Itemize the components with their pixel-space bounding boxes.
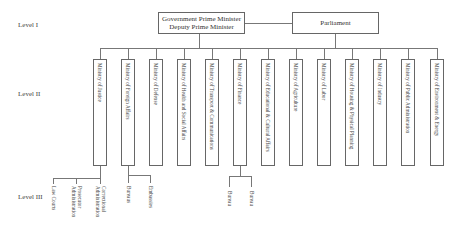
ministry-label: Ministry of Environment & Energy: [434, 63, 440, 136]
ministry-label: Ministry of Finance: [237, 63, 243, 104]
drop-line: [128, 175, 129, 183]
deputy-title: Deputy Prime Minister: [169, 23, 234, 31]
embassies-label: Embassies: [148, 186, 154, 208]
ministry-label: Ministry of Defense: [153, 63, 159, 105]
drop-line: [251, 176, 252, 187]
ministry-label: Ministry of Public Administration: [405, 63, 411, 133]
finance-sub-bus: [229, 176, 252, 177]
drop-line: [352, 48, 353, 59]
law-courts-label: Law Courts: [51, 186, 57, 210]
drop-line: [240, 48, 241, 59]
ministry-label: Ministry of Transport & Communications: [209, 63, 215, 150]
finance-down-connector: [240, 166, 241, 176]
ministry-label: Ministry of Agriculture: [293, 63, 299, 111]
ministry-agriculture-box: Ministry of Agriculture: [289, 59, 303, 166]
drop-line: [296, 48, 297, 59]
ministry-public-administration-box: Ministry of Public Administration: [401, 59, 415, 166]
drop-line: [324, 48, 325, 59]
drop-line: [53, 178, 54, 184]
ministry-labor-box: Ministry of Labor: [317, 59, 331, 166]
ministry-health-box: Ministry of Health and Social Affairs: [177, 59, 191, 166]
parliament-title: Parliament: [320, 19, 350, 27]
drop-line: [150, 175, 151, 183]
foreign-affairs-down-connector: [128, 166, 129, 175]
drop-line: [437, 48, 438, 59]
parliament-down-connector: [335, 34, 336, 48]
parliament-box: Parliament: [292, 12, 379, 34]
ministry-industry-box: Ministry of Industry: [373, 59, 387, 166]
gov-down-connector: [199, 34, 200, 48]
drop-line: [229, 176, 230, 187]
level-2-label: Level II: [18, 90, 40, 98]
ministry-housing-box: Ministry of Housing & Physical Planning: [345, 59, 359, 166]
bureaus-label: Bureaus: [126, 186, 132, 203]
drop-line: [184, 48, 185, 59]
justice-down-connector: [100, 166, 101, 178]
ministry-label: Ministry of Foreign Affairs: [125, 63, 131, 120]
drop-line: [100, 178, 101, 184]
drop-line: [212, 48, 213, 59]
ministry-label: Ministry of Labor: [321, 63, 327, 100]
ministry-environment-box: Ministry of Environment & Energy: [430, 59, 444, 166]
government-title: Government Prime Minister: [162, 15, 241, 23]
ministry-transport-box: Ministry of Transport & Communications: [205, 59, 219, 166]
drop-line: [156, 48, 157, 59]
drop-line: [76, 178, 77, 184]
foreign-affairs-sub-bus: [128, 175, 151, 176]
drop-line: [128, 48, 129, 59]
ministry-foreign-affairs-box: Ministry of Foreign Affairs: [121, 59, 135, 166]
ministry-label: Ministry of Industry: [377, 63, 383, 105]
bureau-label: Bureau: [227, 191, 233, 206]
justice-sub-bus: [53, 178, 101, 179]
drop-line: [380, 48, 381, 59]
ministry-justice-box: Ministry of Justice: [93, 59, 107, 166]
ministry-education-box: Ministry of Educational & Cultural Affai…: [261, 59, 275, 166]
bureau-label: Bureau: [249, 191, 255, 206]
government-box: Government Prime Minister Deputy Prime M…: [158, 12, 245, 34]
ministry-bus-line: [100, 48, 438, 49]
level-1-label: Level I: [18, 21, 38, 29]
prosecutor-administration-label: ProsecutorAdministration: [71, 186, 83, 217]
correctional-administration-label: CorrectionalAdministration: [95, 186, 107, 217]
ministry-defense-box: Ministry of Defense: [149, 59, 163, 166]
ministry-label: Ministry of Justice: [97, 63, 103, 102]
ministry-label: Ministry of Health and Social Affairs: [181, 63, 187, 140]
ministry-label: Ministry of Housing & Physical Planning: [349, 63, 355, 149]
drop-line: [100, 48, 101, 59]
ministry-label: Ministry of Educational & Cultural Affai…: [265, 63, 271, 152]
gov-parliament-connector: [245, 23, 292, 24]
drop-line: [408, 48, 409, 59]
drop-line: [268, 48, 269, 59]
level-3-label: Level III: [18, 193, 43, 201]
ministry-finance-box: Ministry of Finance: [233, 59, 247, 166]
